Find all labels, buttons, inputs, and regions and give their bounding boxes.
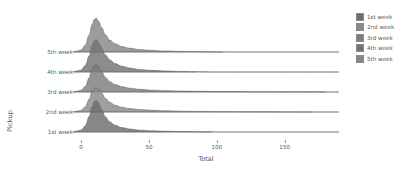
legend-swatch-icon bbox=[356, 44, 364, 52]
legend-item-3rd-week[interactable]: 3rd week bbox=[356, 33, 410, 42]
y-axis-tick-labels: 5th week4th week3rd week2nd week1st week bbox=[0, 0, 73, 171]
legend-label: 2nd week bbox=[367, 24, 394, 30]
legend-swatch-icon bbox=[356, 55, 364, 63]
x-axis-title: Total bbox=[73, 155, 339, 163]
y-tick-mark bbox=[65, 112, 69, 113]
x-tick-label-150: 150 bbox=[279, 144, 290, 150]
x-tick-mark bbox=[81, 140, 82, 143]
legend-item-1st-week[interactable]: 1st week bbox=[356, 12, 410, 21]
y-tick-label-5th-week: 5th week bbox=[11, 49, 73, 55]
legend-label: 4th week bbox=[367, 45, 393, 51]
x-tick-label-100: 100 bbox=[212, 144, 223, 150]
x-tick-mark bbox=[217, 140, 218, 143]
x-tick-label-50: 50 bbox=[145, 144, 152, 150]
legend-label: 1st week bbox=[367, 14, 392, 20]
legend-label: 3rd week bbox=[367, 35, 393, 41]
x-tick-mark bbox=[149, 140, 150, 143]
legend-label: 5th week bbox=[367, 56, 393, 62]
legend-swatch-icon bbox=[356, 23, 364, 31]
x-tick-label-0: 0 bbox=[79, 144, 83, 150]
plot-area bbox=[73, 10, 339, 140]
legend-swatch-icon bbox=[356, 13, 364, 21]
y-tick-label-4th-week: 4th week bbox=[11, 69, 73, 75]
y-tick-mark bbox=[65, 72, 69, 73]
y-tick-label-1st-week: 1st week bbox=[11, 129, 73, 135]
y-tick-mark bbox=[65, 92, 69, 93]
legend-item-4th-week[interactable]: 4th week bbox=[356, 44, 410, 53]
y-tick-mark bbox=[65, 52, 69, 53]
legend-item-2nd-week[interactable]: 2nd week bbox=[356, 23, 410, 32]
legend-swatch-icon bbox=[356, 34, 364, 42]
legend: 1st week2nd week3rd week4th week5th week bbox=[356, 12, 410, 65]
x-tick-mark bbox=[285, 140, 286, 143]
y-tick-mark bbox=[65, 132, 69, 133]
ridgeline-chart: Pickup 5th week4th week3rd week2nd week1… bbox=[0, 0, 411, 171]
ridge-1st-week bbox=[73, 84, 339, 144]
y-tick-label-2nd-week: 2nd week bbox=[11, 109, 73, 115]
legend-item-5th-week[interactable]: 5th week bbox=[356, 54, 410, 63]
y-tick-label-3rd-week: 3rd week bbox=[11, 89, 73, 95]
